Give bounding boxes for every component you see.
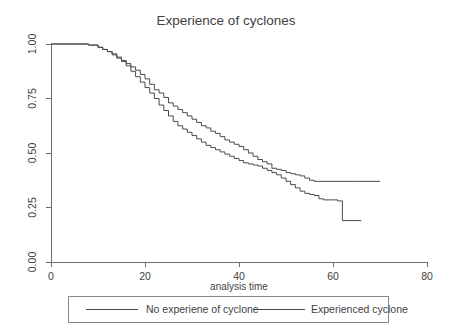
y-tick-label: 0.50 xyxy=(26,143,38,164)
y-tick-label: 0.25 xyxy=(26,197,38,218)
legend-label-0: No experiene of cyclone xyxy=(146,303,259,315)
x-tick-label: 80 xyxy=(421,270,433,282)
x-tick-label: 60 xyxy=(327,270,339,282)
y-tick-label: 1.00 xyxy=(26,34,38,55)
y-tick-label: 0.00 xyxy=(26,252,38,273)
chart-figure: Experience of cyclones 0.000.250.500.751… xyxy=(0,0,453,333)
x-tick-label: 0 xyxy=(48,270,54,282)
legend-label-1: Experienced cyclone xyxy=(311,303,408,315)
y-tick-label: 0.75 xyxy=(26,88,38,109)
chart-title: Experience of cyclones xyxy=(157,13,296,28)
survival-plot: Experience of cyclones 0.000.250.500.751… xyxy=(0,0,453,333)
x-tick-label: 20 xyxy=(139,270,151,282)
x-axis-title: analysis time xyxy=(210,281,268,292)
